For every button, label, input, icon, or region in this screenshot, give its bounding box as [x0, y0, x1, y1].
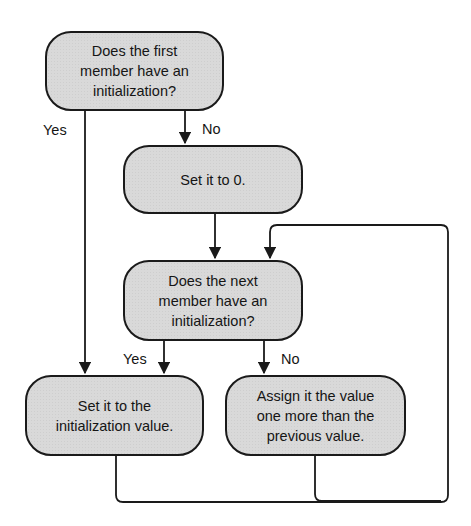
label-next-no: No [281, 351, 300, 367]
label-next-yes: Yes [123, 351, 147, 367]
edge-assign-loop [315, 456, 441, 501]
label-first-yes: Yes [43, 122, 67, 138]
flowchart: Does the first member have an initializa… [0, 0, 471, 526]
node-set-zero: Set it to 0. [123, 145, 303, 214]
label-first-no: No [202, 121, 221, 137]
node-first-member-check: Does the first member have an initializa… [45, 31, 224, 111]
node-next-member-check: Does the next member have an initializat… [123, 260, 303, 341]
node-set-init-value: Set it to the initialization value. [25, 375, 204, 456]
node-assign-increment: Assign it the value one more than the pr… [225, 375, 406, 456]
